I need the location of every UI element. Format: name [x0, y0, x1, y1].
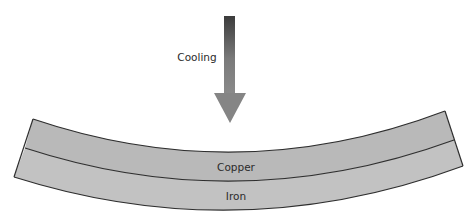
down-arrow-icon	[214, 16, 246, 123]
bimetallic-strip-diagram: Cooling Copper Iron	[0, 0, 472, 221]
iron-label: Iron	[226, 190, 246, 202]
copper-label: Copper	[217, 161, 256, 173]
cooling-label: Cooling	[177, 51, 216, 63]
